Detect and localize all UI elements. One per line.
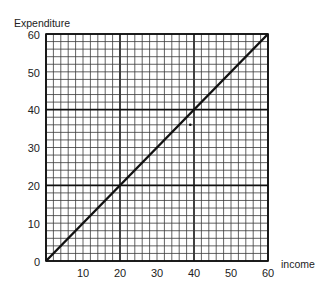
y-tick-30: 30 bbox=[16, 142, 40, 154]
x-tick-50: 50 bbox=[219, 267, 243, 279]
annotation-dot bbox=[189, 124, 192, 127]
plot-area bbox=[0, 0, 331, 295]
y-tick-50: 50 bbox=[16, 67, 40, 79]
chart: Expenditure income 60 50 40 30 20 10 0 1… bbox=[0, 0, 331, 295]
x-tick-20: 20 bbox=[108, 267, 132, 279]
x-tick-30: 30 bbox=[145, 267, 169, 279]
y-tick-20: 20 bbox=[16, 180, 40, 192]
y-tick-60: 60 bbox=[16, 29, 40, 41]
y-tick-40: 40 bbox=[16, 104, 40, 116]
x-tick-40: 40 bbox=[182, 267, 206, 279]
y-axis-title: Expenditure bbox=[14, 17, 70, 29]
y-tick-0: 0 bbox=[16, 256, 40, 268]
x-tick-10: 10 bbox=[71, 267, 95, 279]
x-tick-60: 60 bbox=[256, 267, 280, 279]
y-tick-10: 10 bbox=[16, 218, 40, 230]
x-axis-title: income bbox=[281, 258, 315, 270]
